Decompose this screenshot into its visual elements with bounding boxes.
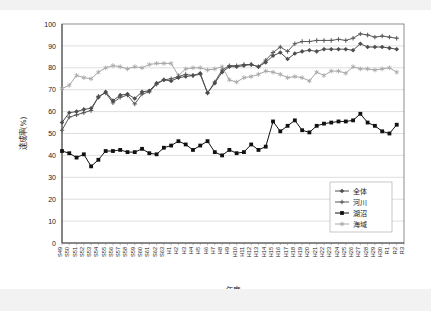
data-point-marker [118, 148, 122, 152]
x-axis-tick-label: H5 [195, 247, 201, 254]
y-axis-tick-label: 40 [48, 152, 56, 159]
data-point-marker [235, 151, 239, 155]
x-axis-tick-label: S58 [122, 247, 128, 257]
data-point-marker [340, 211, 344, 215]
x-axis-tick-label: H14 [261, 247, 267, 257]
legend-label-湖沼: 湖沼 [353, 209, 367, 218]
x-axis-tick-label: H6 [203, 247, 209, 254]
y-axis-tick-label: 0 [52, 240, 56, 247]
x-axis-tick-label: S51 [72, 247, 78, 257]
data-point-marker [286, 124, 290, 128]
y-axis-tick-label: 10 [48, 218, 56, 225]
x-axis-tick-label: H23 [326, 247, 332, 257]
data-point-marker [308, 131, 312, 135]
data-point-marker [227, 148, 231, 152]
x-axis-tick-label: R2 [392, 247, 398, 254]
x-axis-tick-label: R1 [384, 247, 390, 254]
data-point-marker [140, 147, 144, 151]
data-point-marker [278, 129, 282, 133]
y-axis-tick-label: 30 [48, 174, 56, 181]
x-axis-tick-label: S63 [159, 247, 165, 257]
y-axis-tick-label: 50 [48, 130, 56, 137]
x-axis-tick-label: S52 [79, 247, 85, 257]
data-point-marker [395, 123, 399, 127]
scan-band-top [0, 0, 431, 10]
x-axis-tick-label: S62 [152, 247, 158, 257]
x-axis-tick-label: S56 [108, 247, 114, 257]
x-axis-tick-label: S61 [144, 247, 150, 257]
data-point-marker [67, 151, 71, 155]
x-axis-tick-label: H10 [232, 247, 238, 257]
data-point-marker [75, 156, 79, 160]
data-point-marker [213, 150, 217, 154]
legend-label-河川: 河川 [353, 199, 367, 207]
x-axis-tick-label: S60 [137, 247, 143, 257]
y-axis-tick-label: 70 [48, 86, 56, 93]
data-point-marker [351, 118, 355, 122]
data-point-marker [155, 152, 159, 156]
data-point-marker [271, 120, 275, 124]
x-axis-tick-label: H12 [246, 247, 252, 257]
x-axis-tick-label: S54 [93, 247, 99, 257]
x-axis-tick-label: H29 [370, 247, 376, 257]
data-point-marker [82, 152, 86, 156]
data-point-marker [264, 145, 268, 149]
x-axis-tick-label: S55 [101, 247, 107, 257]
chart-legend: 全体河川湖沼海域 [330, 182, 392, 232]
x-axis-tick-label: H21 [312, 247, 318, 257]
y-axis-title: 達成率(%) [18, 116, 28, 150]
scan-band-bottom [0, 289, 431, 311]
data-point-marker [315, 124, 319, 128]
x-axis-tick-label: H25 [341, 247, 347, 257]
data-point-marker [198, 144, 202, 148]
x-axis-tick-label: H28 [363, 247, 369, 257]
x-axis-tick-label: H20 [304, 247, 310, 257]
x-axis-tick-label: R3 [399, 247, 405, 254]
data-point-marker [373, 124, 377, 128]
x-axis-tick-label: H8 [217, 247, 223, 254]
data-point-marker [366, 121, 370, 125]
data-point-marker [104, 149, 108, 153]
data-point-marker [257, 148, 261, 152]
x-axis-tick-label: H22 [319, 247, 325, 257]
x-axis-tick-label: H4 [188, 247, 194, 254]
legend-label-海域: 海域 [353, 220, 367, 229]
data-point-marker [126, 150, 130, 154]
data-point-marker [111, 149, 115, 153]
data-point-marker [220, 154, 224, 158]
x-axis-tick-label: H13 [253, 247, 259, 257]
x-axis-tick-label: H9 [224, 247, 230, 254]
data-point-marker [249, 143, 253, 147]
data-point-marker [322, 122, 326, 126]
data-point-marker [60, 149, 64, 153]
data-point-marker [96, 158, 100, 162]
data-point-marker [293, 118, 297, 122]
data-point-marker [388, 132, 392, 136]
y-axis-tick-label: 60 [48, 108, 56, 115]
x-axis-tick-label: H26 [348, 247, 354, 257]
data-point-marker [169, 144, 173, 148]
x-axis-tick-label: H1 [166, 247, 172, 254]
x-axis-tick-label: H15 [268, 247, 274, 257]
data-point-marker [242, 150, 246, 154]
data-point-marker [177, 139, 181, 143]
data-point-marker [89, 164, 93, 168]
data-point-marker [206, 139, 210, 143]
data-point-marker [184, 143, 188, 147]
chart-figure: 0102030405060708090100S49S50S51S52S53S54… [0, 0, 431, 311]
x-axis-tick-label: S57 [115, 247, 121, 257]
y-axis-tick-label: 90 [48, 43, 56, 50]
data-point-marker [358, 112, 362, 116]
x-axis-tick-label: S59 [130, 247, 136, 257]
x-axis-tick-label: H11 [239, 247, 245, 257]
data-point-marker [147, 151, 151, 155]
legend-label-全体: 全体 [353, 187, 367, 196]
y-axis-tick-label: 20 [48, 196, 56, 203]
data-point-marker [344, 120, 348, 124]
data-point-marker [337, 120, 341, 124]
x-axis-tick-label: H18 [290, 247, 296, 257]
data-point-marker [329, 121, 333, 125]
data-point-marker [380, 129, 384, 133]
x-axis-tick-label: H19 [297, 247, 303, 257]
y-axis-tick-label: 100 [44, 21, 56, 28]
